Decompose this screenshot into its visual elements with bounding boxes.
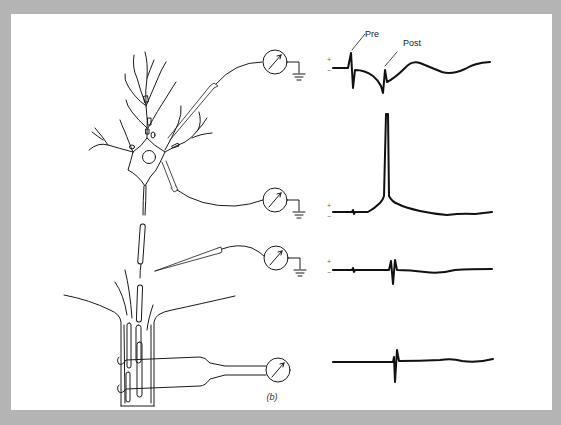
trace-1: + − Pre Post: [327, 29, 490, 93]
trace-2: + −: [327, 114, 492, 220]
meter-2: [263, 188, 305, 218]
svg-text:+: +: [327, 56, 331, 63]
ground-icon: [288, 258, 300, 269]
ground-icon: [287, 200, 299, 211]
electrode-2: [162, 161, 263, 206]
svg-text:−: −: [327, 269, 331, 276]
meter-3: [264, 246, 306, 276]
trace-4: [333, 350, 493, 382]
svg-text:+: +: [327, 258, 331, 265]
post-label: Post: [403, 38, 422, 48]
electrode-1: [168, 62, 262, 140]
ground-icon: [287, 62, 299, 73]
electrode-3: [155, 246, 264, 271]
svg-text:−: −: [327, 213, 331, 220]
meter-1: [263, 50, 305, 80]
nucleus: [143, 151, 156, 164]
trace-3: + −: [327, 258, 492, 284]
pre-label: Pre: [365, 29, 379, 39]
svg-text:+: +: [327, 202, 331, 209]
myelin-segment: [136, 285, 142, 322]
neuron-drawing: [64, 52, 235, 406]
neuron-recording-diagram: + − Pre Post + − + − (b): [0, 0, 561, 425]
svg-text:−: −: [327, 67, 331, 74]
figure-caption: (b): [267, 392, 278, 402]
meter-4: [266, 358, 290, 382]
myelin-segment: [138, 224, 146, 264]
